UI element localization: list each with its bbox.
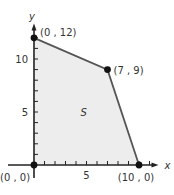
y-axis-arrow-icon <box>32 24 37 31</box>
y-tick-label: 5 <box>22 107 28 118</box>
feasible-region-diagram: 5510xyS(0 , 0)(0 , 12)(7 , 9)(10 , 0) <box>0 0 174 195</box>
vertex-point <box>136 162 143 169</box>
vertex-label: (10 , 0) <box>118 172 155 183</box>
y-axis-label: y <box>28 11 36 22</box>
x-tick-label: 5 <box>83 170 89 181</box>
vertex-label: (0 , 12) <box>40 27 77 38</box>
feasible-region <box>34 38 139 165</box>
vertex-point <box>104 66 111 73</box>
vertex-label: (0 , 0) <box>0 172 30 183</box>
vertex-label: (7 , 9) <box>114 65 144 76</box>
vertex-point <box>31 162 38 169</box>
y-tick-label: 10 <box>15 54 28 65</box>
vertex-point <box>31 34 38 41</box>
x-axis-arrow-icon <box>152 163 159 168</box>
x-axis-label: x <box>164 160 171 171</box>
region-label: S <box>81 107 88 118</box>
